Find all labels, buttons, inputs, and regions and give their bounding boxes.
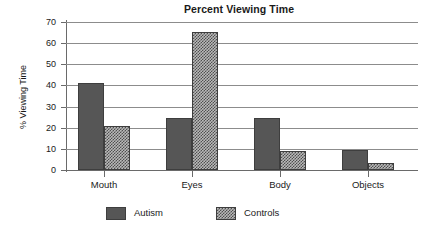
x-tick-mark bbox=[104, 171, 105, 177]
y-tick-label: 10 bbox=[30, 145, 56, 154]
y-axis-label: % Viewing Time bbox=[18, 27, 30, 167]
bar-mouth-controls bbox=[104, 126, 130, 170]
y-tick-label: 40 bbox=[30, 81, 56, 90]
x-tick-mark bbox=[280, 171, 281, 177]
bar-objects-controls bbox=[368, 163, 394, 170]
legend-swatch-controls bbox=[216, 207, 236, 220]
legend-entry-controls[interactable]: Controls bbox=[216, 205, 279, 221]
chart-title: Percent Viewing Time bbox=[60, 3, 418, 15]
chart-legend: AutismControls bbox=[66, 205, 418, 225]
bar-mouth-autism bbox=[78, 83, 104, 170]
y-tick-label: 0 bbox=[30, 166, 56, 175]
y-tick-label: 70 bbox=[30, 18, 56, 27]
x-tick-label-eyes: Eyes bbox=[152, 179, 232, 190]
y-tick-label: 60 bbox=[30, 39, 56, 48]
legend-label-controls: Controls bbox=[244, 208, 279, 218]
bar-chart-figure: Percent Viewing Time % Viewing Time 7060… bbox=[0, 0, 437, 234]
y-tick-label: 20 bbox=[30, 124, 56, 133]
x-tick-mark bbox=[192, 171, 193, 177]
gridline bbox=[66, 107, 418, 108]
legend-swatch-autism bbox=[106, 207, 126, 220]
legend-label-autism: Autism bbox=[134, 208, 163, 218]
gridline bbox=[66, 85, 418, 86]
y-tick-label: 30 bbox=[30, 103, 56, 112]
gridline bbox=[66, 170, 418, 171]
y-tick-label: 50 bbox=[30, 60, 56, 69]
gridline bbox=[66, 43, 418, 44]
x-tick-mark bbox=[368, 171, 369, 177]
x-tick-label-mouth: Mouth bbox=[64, 179, 144, 190]
bar-eyes-controls bbox=[192, 32, 218, 170]
plot-area bbox=[66, 22, 418, 170]
legend-entry-autism[interactable]: Autism bbox=[106, 205, 163, 221]
bar-eyes-autism bbox=[166, 118, 192, 170]
x-tick-label-objects: Objects bbox=[328, 179, 408, 190]
bar-body-controls bbox=[280, 151, 306, 170]
bar-objects-autism bbox=[342, 150, 368, 170]
gridline bbox=[66, 64, 418, 65]
x-tick-label-body: Body bbox=[240, 179, 320, 190]
bar-body-autism bbox=[254, 118, 280, 170]
gridline bbox=[66, 22, 418, 23]
